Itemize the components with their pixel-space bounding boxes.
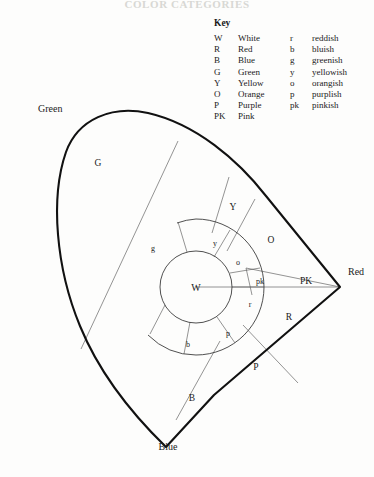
divider-R-P	[243, 325, 298, 383]
color-category-diagram: Green Red Blue G Y O PK R P B g y o pk r…	[0, 0, 374, 477]
label-region-Y: Y	[230, 202, 237, 212]
label-region-G: G	[95, 158, 102, 168]
label-ring-b: b	[186, 340, 190, 349]
spoke-b-g	[150, 305, 165, 334]
label-blue-corner: Blue	[159, 441, 178, 452]
label-ring-pk: pk	[256, 277, 264, 286]
label-ring-g: g	[151, 244, 155, 253]
spoke-pk-outer	[246, 268, 252, 295]
label-ring-p: p	[226, 329, 230, 338]
label-red-corner: Red	[348, 266, 364, 277]
divider-G-Y	[212, 177, 229, 233]
ring-arc-lower-right	[196, 287, 264, 355]
label-green-corner: Green	[38, 103, 62, 114]
spoke-p-b	[184, 322, 190, 354]
label-ring-y: y	[213, 239, 217, 248]
label-region-B: B	[189, 393, 195, 403]
label-region-P: P	[253, 362, 258, 372]
corner-labels: Green Red Blue	[38, 103, 364, 452]
outer-region-labels: G Y O PK R P B	[95, 158, 313, 403]
label-region-O: O	[268, 235, 275, 245]
label-region-PK: PK	[300, 276, 312, 286]
label-ring-r: r	[249, 300, 252, 309]
label-ring-o: o	[236, 258, 240, 267]
ring-arc-upper-right	[196, 219, 264, 287]
divider-G-B	[81, 141, 178, 349]
spoke-g-y	[178, 222, 187, 252]
page-canvas: COLOR CATEGORIES Key W White r reddish R…	[0, 0, 374, 477]
spoke-o-pk	[230, 268, 260, 273]
label-region-R: R	[286, 312, 293, 322]
label-center-white: W	[191, 282, 201, 293]
ring-arc-y-left	[177, 219, 196, 223]
